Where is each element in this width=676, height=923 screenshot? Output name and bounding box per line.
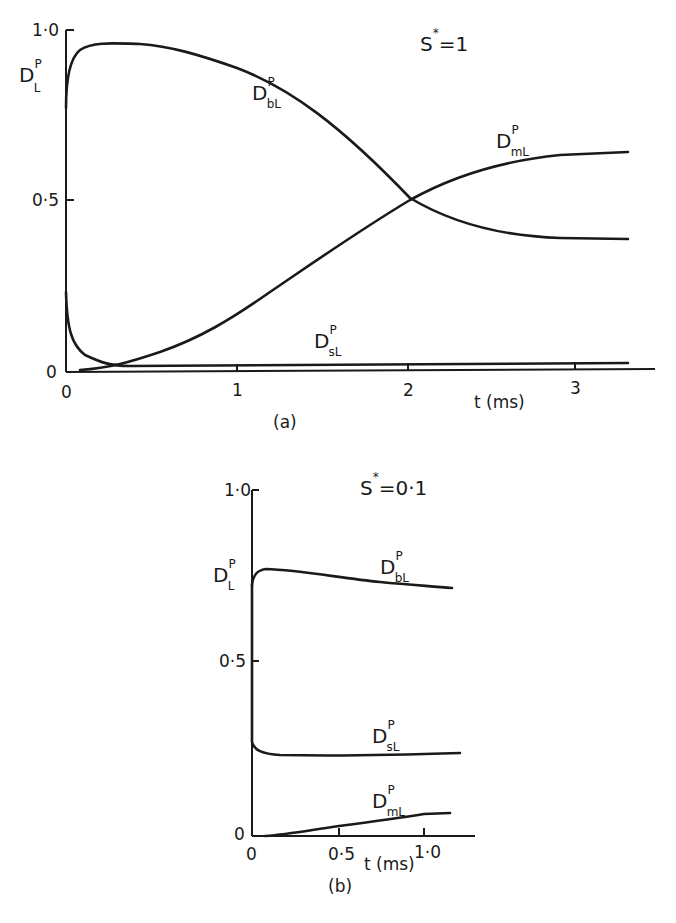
figure: 1·0 0·5 0 0 1 2 3 t (ms) DPL S*=1 DPbL D… xyxy=(0,0,676,923)
curve-label-dsl-b: DPsL xyxy=(372,718,400,754)
x-tick-label-05-b: 0·5 xyxy=(328,844,355,864)
y-axis-label-b: DPL xyxy=(213,557,236,593)
y-tick-label-1-a: 1·0 xyxy=(32,20,59,40)
param-label-a: S*=1 xyxy=(420,26,468,56)
curve-dbl-b xyxy=(252,569,452,588)
caption-a: (a) xyxy=(273,412,297,432)
x-tick-label-2-a: 2 xyxy=(403,380,414,400)
x-tick-label-1-b: 1·0 xyxy=(414,842,441,862)
x-tick-label-0-a: 0 xyxy=(61,382,72,402)
curve-label-dml-b: DPmL xyxy=(372,783,405,819)
x-tick-label-0-b: 0 xyxy=(246,844,257,864)
y-axis-label-a: DPL xyxy=(19,57,42,95)
curve-dsl-b xyxy=(252,585,460,755)
y-tick-label-05-b: 0·5 xyxy=(219,651,246,671)
curve-label-dsl-a: DPsL xyxy=(314,323,342,359)
x-tick-label-3-a: 3 xyxy=(570,378,581,398)
curve-dbl-a xyxy=(66,43,628,239)
curve-label-dbl-a: DPbL xyxy=(252,75,281,111)
curve-label-dbl-b: DPbL xyxy=(380,549,409,585)
x-axis-label-b: t (ms) xyxy=(364,854,415,874)
curve-dml-b xyxy=(265,813,450,836)
y-tick-label-0-b: 0 xyxy=(234,824,245,844)
chart-panel-a: 1·0 0·5 0 0 1 2 3 t (ms) DPL S*=1 DPbL D… xyxy=(19,20,655,432)
curve-label-dml-a: DPmL xyxy=(496,123,529,159)
y-tick-label-1-b: 1·0 xyxy=(224,480,251,500)
param-label-b: S*=0·1 xyxy=(360,470,427,500)
caption-b: (b) xyxy=(328,876,352,896)
y-tick-label-05-a: 0·5 xyxy=(32,190,59,210)
x-axis-a xyxy=(66,369,655,372)
chart-panel-b: 1·0 0·5 0 0 0·5 1·0 t (ms) DPL S*=0·1 DP… xyxy=(213,470,475,896)
y-tick-label-0-a: 0 xyxy=(46,362,57,382)
x-tick-label-1-a: 1 xyxy=(232,380,243,400)
x-axis-label-a: t (ms) xyxy=(474,392,525,412)
curve-dml-a xyxy=(80,152,628,370)
